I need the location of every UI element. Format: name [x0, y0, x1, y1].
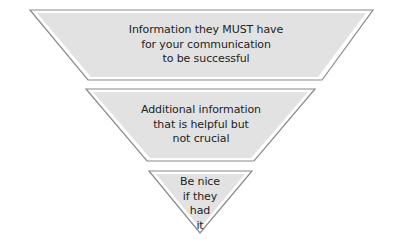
tier-1-label: Information they MUST have for your comm… [100, 23, 312, 67]
tier-1-line-3: to be successful [100, 52, 312, 67]
tier-3-line-2: if they [170, 190, 230, 205]
tier-3-label: Be nice if they had it [170, 175, 230, 233]
tier-2-line-3: not crucial [120, 132, 282, 147]
tier-1-line-1: Information they MUST have [100, 23, 312, 38]
tier-3-line-3: had [170, 204, 230, 219]
tier-3-line-4: it [170, 219, 230, 234]
tier-2-line-1: Additional information [120, 103, 282, 118]
tier-2-line-2: that is helpful but [120, 118, 282, 133]
tier-1-line-2: for your communication [100, 38, 312, 53]
tier-2-label: Additional information that is helpful b… [120, 103, 282, 147]
tier-3-line-1: Be nice [170, 175, 230, 190]
